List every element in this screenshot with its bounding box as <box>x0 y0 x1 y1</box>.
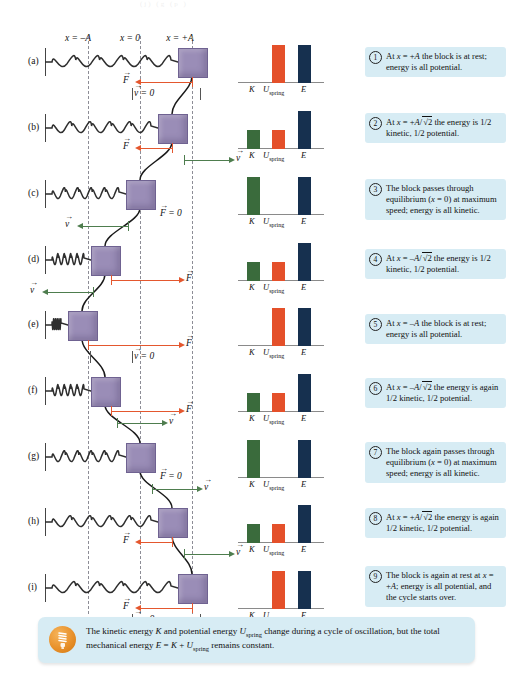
velocity-label: v <box>204 482 208 492</box>
tick-Uspring: Uspring <box>263 84 284 96</box>
bar-E <box>298 505 311 543</box>
force-label: F = 0 <box>160 208 182 218</box>
callout-5: 5At x = –A the block is at rest; energy … <box>365 314 506 344</box>
bar-K <box>247 262 260 281</box>
velocity-label: v <box>169 416 173 426</box>
callout-text: At x = –A/√2 the energy is again 1/2 kin… <box>386 382 498 403</box>
velocity-bracket-0 <box>132 88 133 100</box>
bar-E <box>298 571 311 609</box>
spring <box>45 378 91 404</box>
tick-E: E <box>301 216 306 226</box>
energy-bar-chart-h: KUspringE <box>238 500 324 556</box>
force-arrow <box>140 82 192 83</box>
tick-E: E <box>301 413 306 423</box>
tick-E: E <box>301 150 306 160</box>
force-tail-tick <box>111 406 112 416</box>
panel-label: (i) <box>28 582 37 592</box>
tick-E: E <box>301 479 306 489</box>
callout-number: 4 <box>369 253 382 266</box>
spring <box>45 575 178 601</box>
velocity-tail-tick <box>184 549 185 559</box>
chart-tick-labels: KUspringE <box>238 412 324 425</box>
panel-label: (g) <box>28 451 39 461</box>
callout-text: The block again passes through equilibri… <box>386 446 497 478</box>
lightbulb-icon <box>49 626 76 653</box>
callout-number: 8 <box>369 512 382 525</box>
panel-label: (b) <box>28 122 39 132</box>
chart-tick-labels: KUspringE <box>238 346 324 359</box>
callout-2: 2At x = +A/√2 the energy is 1/2 kinetic,… <box>365 113 506 143</box>
callout-1: 1At x = +A the block is at rest; energy … <box>365 47 506 77</box>
bar-E <box>298 111 311 149</box>
force-tail-tick <box>88 340 89 350</box>
velocity-tail-tick <box>184 155 185 165</box>
velocity-arrow <box>47 292 93 293</box>
callout-text: At x = –A/√2 the energy is 1/2 kinetic, … <box>386 253 491 274</box>
bar-U_spring <box>272 45 285 83</box>
block <box>91 246 121 276</box>
force-arrow <box>140 542 172 543</box>
block <box>178 574 208 604</box>
energy-bar-chart-d: KUspringE <box>238 238 324 294</box>
callout-text: The block passes through equilibrium (x … <box>386 183 497 215</box>
bar-U_spring <box>272 524 285 543</box>
callout-text: At x = –A the block is at rest; energy i… <box>386 318 486 339</box>
velocity-arrowhead <box>77 223 83 229</box>
panel-label: (a) <box>28 56 39 66</box>
force-tail-tick <box>192 603 193 613</box>
bar-E <box>298 45 311 83</box>
force-arrowhead <box>135 145 141 151</box>
force-label: F <box>123 535 129 545</box>
tick-Uspring: Uspring <box>263 479 284 491</box>
bar-U_spring <box>272 393 285 412</box>
chart-tick-labels: KUspringE <box>238 478 324 491</box>
force-label: F <box>123 141 129 151</box>
tick-Uspring: Uspring <box>263 544 284 556</box>
spring <box>45 312 68 338</box>
callout-6: 6At x = –A/√2 the energy is again 1/2 ki… <box>365 378 506 408</box>
bar-U_spring <box>272 130 285 149</box>
force-arrowhead <box>179 408 185 414</box>
block <box>158 508 188 538</box>
panel-label: (f) <box>28 385 38 395</box>
tick-Uspring: Uspring <box>263 347 284 359</box>
energy-bar-chart-g: KUspringE <box>238 435 324 491</box>
velocity-arrow <box>184 160 230 161</box>
bar-E <box>298 308 311 346</box>
tick-Uspring: Uspring <box>263 413 284 425</box>
tick-K: K <box>249 150 255 160</box>
tick-K: K <box>249 347 255 357</box>
energy-bar-chart-c: KUspringE <box>238 172 324 228</box>
bar-K <box>247 393 260 412</box>
bar-U_spring <box>272 308 285 346</box>
force-arrow <box>140 608 192 609</box>
bar-E <box>298 374 311 412</box>
velocity-arrowhead <box>197 486 203 492</box>
velocity-arrowhead <box>229 551 235 557</box>
force-label: F = 0 <box>160 471 182 481</box>
tick-K: K <box>249 544 255 554</box>
force-label: F <box>186 273 192 283</box>
tick-E: E <box>301 544 306 554</box>
block <box>91 377 121 407</box>
callout-number: 6 <box>369 382 382 395</box>
bar-E <box>298 243 311 281</box>
bar-K <box>247 177 260 215</box>
callout-8: 8At x = +A/√2 the energy is again 1/2 ki… <box>365 508 506 538</box>
chart-tick-labels: KUspringE <box>238 83 324 96</box>
tick-K: K <box>249 216 255 226</box>
callout-number: 1 <box>369 51 382 64</box>
force-arrow <box>111 280 180 281</box>
force-arrow <box>140 148 172 149</box>
velocity-arrow <box>184 554 230 555</box>
velocity-arrowhead <box>42 289 48 295</box>
block <box>178 48 208 78</box>
velocity-label: v = 0 <box>134 351 154 361</box>
tick-K: K <box>249 84 255 94</box>
top-cropped-artifact: (j) (g (p ) <box>140 0 390 10</box>
spring <box>45 247 91 273</box>
velocity-bracket-1 <box>200 88 201 100</box>
panel-label: (c) <box>28 188 39 198</box>
velocity-label: v <box>65 219 69 229</box>
summary-text: The kinetic energy K and potential energ… <box>86 625 462 653</box>
